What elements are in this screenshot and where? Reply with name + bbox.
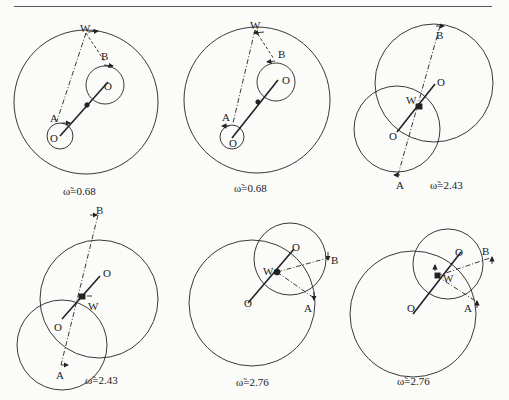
w-marker (274, 269, 280, 275)
circle-b (375, 24, 493, 142)
label-b: B (436, 29, 443, 41)
ab-dashdot (398, 26, 440, 175)
label-a: A (56, 369, 64, 381)
label-o: O (282, 74, 290, 86)
center-dot (85, 103, 89, 107)
panel-3 (354, 24, 493, 175)
label-w: W (263, 265, 274, 277)
panel-5 (189, 223, 328, 366)
label-o: O (244, 297, 252, 309)
label-a: A (304, 302, 312, 314)
label-o: O (229, 137, 237, 149)
wb-dashed (255, 30, 274, 59)
caption: ω̃=2.76 (397, 375, 430, 387)
w-marker (79, 294, 85, 299)
label-w: W (250, 19, 261, 31)
label-o: O (455, 246, 463, 258)
label-a: A (464, 302, 472, 314)
circle-large (189, 240, 315, 366)
circle-b (40, 240, 158, 358)
label-o: O (407, 302, 415, 314)
w-marker (435, 273, 440, 278)
panel-2 (184, 27, 330, 173)
label-a: A (50, 112, 58, 124)
label-o: O (389, 130, 397, 142)
caption: ω̃=2.43 (430, 179, 463, 191)
label-w: W (443, 272, 454, 284)
w-marker (416, 104, 422, 109)
label-w: W (88, 300, 99, 312)
label-o: O (54, 321, 62, 333)
arm-line (232, 80, 278, 138)
figure: W B A O O ω̃=0.68 W B A O O ω̃=0.68 B W … (0, 0, 509, 400)
label-o: O (103, 267, 111, 279)
label-o: O (50, 132, 58, 144)
wa-dashdot (233, 30, 255, 123)
label-b: B (482, 245, 489, 257)
wa-dashdot (57, 33, 86, 121)
outer-circle (14, 30, 158, 174)
label-o: O (104, 80, 112, 92)
label-b: B (331, 254, 338, 266)
caption: ω̃=0.68 (63, 185, 96, 197)
caption: ω̃=0.68 (234, 182, 267, 194)
label-o: O (292, 241, 300, 253)
label-a: A (222, 111, 230, 123)
label-b: B (278, 48, 285, 60)
ab-dashdot (61, 215, 98, 365)
label-w: W (406, 94, 417, 106)
caption: ω̃=2.76 (236, 376, 269, 388)
label-a: A (396, 179, 404, 191)
center-dot (256, 100, 260, 104)
label-b: B (101, 50, 108, 62)
label-o: O (437, 76, 445, 88)
label-b: B (96, 204, 103, 216)
label-w: W (80, 22, 91, 34)
caption: ω̃=2.43 (85, 374, 118, 386)
arm-line (413, 252, 461, 314)
panel-1 (14, 30, 158, 174)
